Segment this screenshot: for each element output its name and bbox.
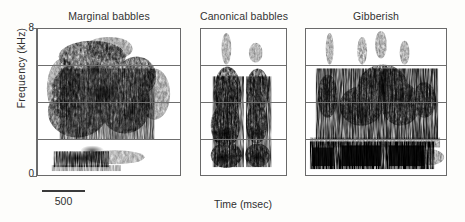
gridline-6khz xyxy=(38,65,180,66)
y-axis-tick-mark-0 xyxy=(32,176,37,177)
gridline-2khz xyxy=(201,139,286,140)
panel-canonical-babbles xyxy=(200,28,287,176)
gridline-4khz xyxy=(306,102,446,103)
gridline-6khz xyxy=(306,65,446,66)
panel-title-marginal-babbles: Marginal babbles xyxy=(37,10,181,22)
panel-title-canonical-babbles: Canonical babbles xyxy=(200,10,287,22)
gridline-6khz xyxy=(201,65,286,66)
time-scale-bar xyxy=(42,190,85,192)
panel-marginal-babbles xyxy=(37,28,181,176)
time-scale-bar-label: 500 xyxy=(42,195,85,207)
panel-gibberish xyxy=(305,28,447,176)
gridline-4khz xyxy=(201,102,286,103)
y-axis-tick-bottom: 0 xyxy=(20,168,34,179)
spectrogram-figure: Frequency (kHz) 8 0 Marginal babbles Can… xyxy=(0,0,465,222)
gridline-2khz xyxy=(38,139,180,140)
panel-title-gibberish: Gibberish xyxy=(305,10,447,22)
x-axis-label: Time (msec) xyxy=(163,198,323,210)
gridline-4khz xyxy=(38,102,180,103)
gridline-2khz xyxy=(306,139,446,140)
